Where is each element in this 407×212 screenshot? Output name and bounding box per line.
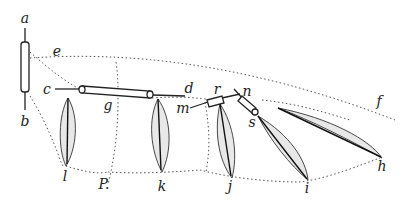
label-f: f [376, 94, 381, 108]
outline-bottom [108, 158, 380, 182]
label-h: h [377, 159, 386, 173]
label-a: a [21, 11, 29, 25]
bone-carpal [207, 96, 224, 107]
feather-l [60, 98, 75, 166]
label-l: l [63, 169, 67, 183]
label-n: n [242, 84, 251, 98]
rod-m [190, 102, 208, 108]
bone-humerus [21, 42, 29, 92]
label-m: m [176, 101, 189, 115]
rod-d [153, 95, 185, 96]
bone-forearm [82, 86, 150, 98]
label-P: P. [98, 177, 109, 191]
label-b: b [21, 114, 30, 128]
feather-i [258, 116, 308, 180]
feather-j [217, 104, 234, 178]
feather-k [152, 99, 169, 172]
label-r: r [214, 82, 221, 96]
label-d: d [185, 81, 194, 95]
label-i: i [305, 181, 309, 195]
label-s: s [248, 115, 255, 129]
label-j: j [228, 179, 232, 193]
wing-drawing [0, 0, 407, 212]
label-e: e [53, 44, 61, 58]
label-g: g [104, 98, 113, 112]
label-c: c [43, 82, 51, 96]
wing-diagram: a b e c g d m r n s f l P. k j i h [0, 0, 407, 212]
label-k: k [158, 179, 166, 193]
outline-m [205, 102, 209, 172]
outline-g-line [108, 62, 118, 185]
